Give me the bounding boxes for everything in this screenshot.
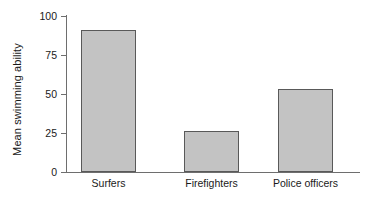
x-axis-line: [66, 172, 360, 173]
y-tick-label-25: 25: [17, 128, 57, 139]
y-tick-mark-100: [61, 16, 67, 17]
y-tick-mark-50: [61, 94, 67, 95]
bar-firefighters: [184, 131, 239, 172]
x-axis-label-police-officers: Police officers: [246, 178, 366, 190]
bar-police-officers: [278, 89, 333, 172]
y-tick-mark-75: [61, 55, 67, 56]
bar-chart-figure: Mean swimming ability 100 75 50 25 0 Sur…: [0, 0, 375, 199]
x-axis-label-surfers: Surfers: [49, 178, 169, 190]
bar-surfers: [81, 30, 136, 172]
y-tick-label-50: 50: [17, 89, 57, 100]
y-tick-label-0: 0: [17, 167, 57, 178]
y-tick-label-75: 75: [17, 50, 57, 61]
y-tick-label-100: 100: [17, 11, 57, 22]
y-tick-mark-0: [61, 172, 67, 173]
y-tick-mark-25: [61, 133, 67, 134]
